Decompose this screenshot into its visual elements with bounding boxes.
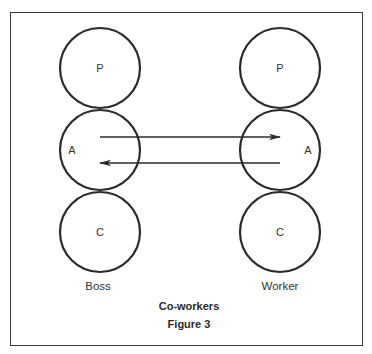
worker-child-label: C bbox=[276, 226, 284, 238]
boss-parent-label: P bbox=[96, 62, 103, 74]
figure-caption: Figure 3 bbox=[168, 318, 211, 330]
worker-name-label: Worker bbox=[262, 280, 299, 292]
worker-adult-label: A bbox=[304, 144, 311, 156]
boss-name-label: Boss bbox=[85, 280, 111, 292]
boss-child-label: C bbox=[96, 226, 104, 238]
figure-title: Co-workers bbox=[159, 300, 220, 312]
worker-parent-label: P bbox=[276, 62, 283, 74]
boss-adult-label: A bbox=[68, 144, 75, 156]
